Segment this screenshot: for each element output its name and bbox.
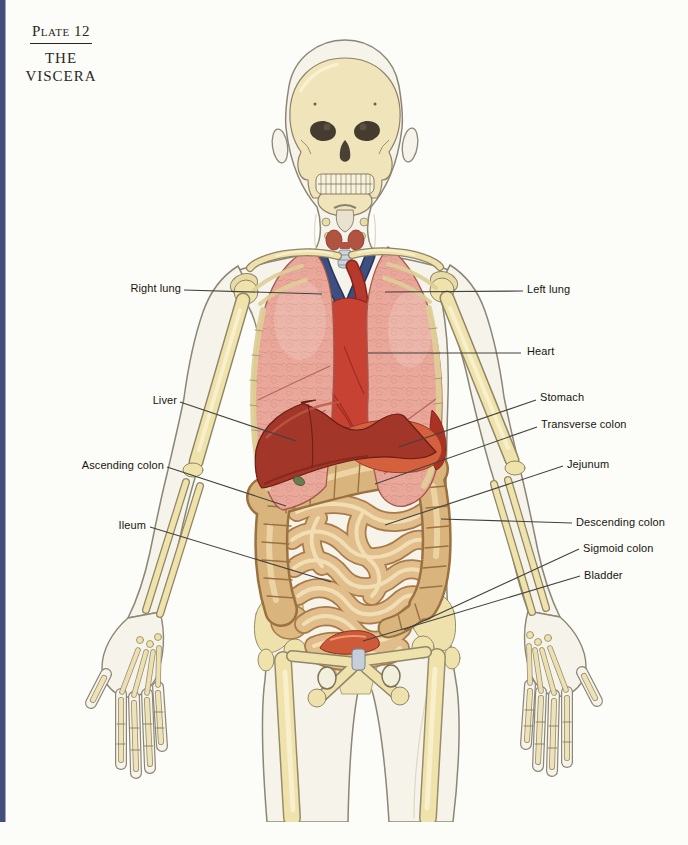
pubic-symphysis	[352, 649, 365, 670]
label-transverse-colon: Transverse colon	[541, 419, 627, 430]
right-obturator-foramen	[382, 665, 400, 687]
label-descending-colon: Descending colon	[576, 517, 665, 528]
label-liver: Liver	[153, 395, 177, 406]
teeth	[316, 174, 374, 194]
label-right-lung: Right lung	[130, 283, 181, 294]
label-jejunum: Jejunum	[567, 459, 609, 470]
label-sigmoid-colon: Sigmoid colon	[583, 543, 653, 554]
label-stomach: Stomach	[540, 392, 584, 403]
right-elbow	[505, 461, 525, 475]
label-left-lung: Left lung	[527, 284, 570, 295]
label-ileum: Ileum	[119, 520, 146, 531]
left-elbow	[183, 463, 203, 477]
label-heart: Heart	[527, 346, 554, 357]
label-bladder: Bladder	[584, 570, 623, 581]
right-ear	[400, 127, 420, 163]
left-obturator-foramen	[318, 667, 336, 689]
left-arm-outline	[128, 266, 247, 618]
atlas-page: Plate 12 THE VISCERA	[0, 0, 688, 845]
label-ascending-colon: Ascending colon	[82, 460, 164, 471]
